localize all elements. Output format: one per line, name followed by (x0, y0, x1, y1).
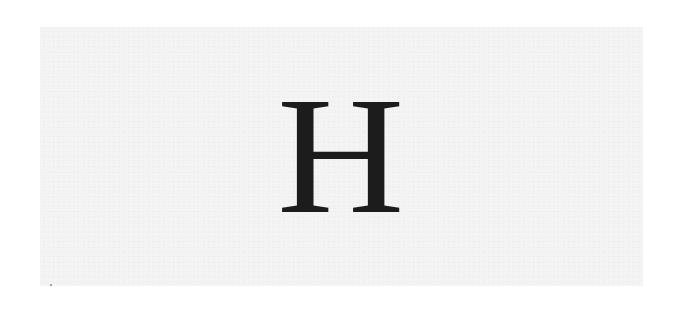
letter-glyph: H (277, 71, 404, 239)
scanned-panel: H (40, 27, 643, 286)
canvas: H (0, 0, 682, 310)
scan-speck (50, 284, 52, 286)
large-serif-letter: H (40, 27, 643, 286)
